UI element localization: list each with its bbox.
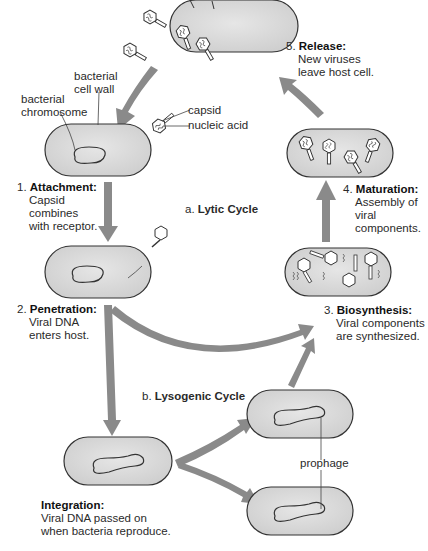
step-penetration: 2. Penetration: Viral DNA enters host. — [17, 303, 97, 342]
step-maturation: 4. Maturation: Assembly of viral compone… — [343, 183, 421, 235]
arrow-integration-to-daughter-bottom — [178, 462, 259, 504]
step-release: 5. Release: New viruses leave host cell. — [286, 40, 374, 79]
arrow-attachment-down — [98, 182, 118, 242]
label-nucleic-acid: nucleic acid — [188, 119, 248, 132]
lysogenic-cycle-title: b. Lysogenic Cycle — [142, 390, 245, 403]
arrow-release-to-attachment — [116, 66, 158, 130]
step-integration: Integration: Viral DNA passed on when ba… — [41, 499, 171, 538]
arrow-biosynthesis-to-maturation — [316, 180, 336, 242]
cell-maturation — [287, 129, 393, 177]
cell-integration — [64, 437, 172, 485]
cell-attachment — [45, 124, 151, 176]
label-chromosome: bacterial chromosome — [21, 93, 87, 119]
cell-daughter-top — [247, 390, 353, 438]
step-attachment: 1. Attachment: Capsid combines with rece… — [17, 181, 97, 233]
arrow-integration-to-daughter-top — [175, 418, 256, 467]
arrow-penetration-down — [103, 305, 121, 436]
step-biosynthesis: 3. Biosynthesis: Viral components are sy… — [324, 304, 425, 343]
cell-penetration — [45, 246, 151, 298]
lytic-cycle-title: a. Lytic Cycle — [185, 203, 258, 216]
label-prophage: prophage — [300, 457, 349, 470]
arrow-penetration-to-biosynthesis — [110, 306, 314, 352]
arrow-lysogenic-to-biosynthesis — [288, 338, 315, 388]
arrow-maturation-to-release — [279, 77, 324, 118]
attached-phage — [150, 110, 177, 135]
label-capsid: capsid — [188, 104, 221, 117]
cell-daughter-bottom — [247, 487, 353, 535]
lytic-lysogenic-diagram — [0, 0, 428, 551]
